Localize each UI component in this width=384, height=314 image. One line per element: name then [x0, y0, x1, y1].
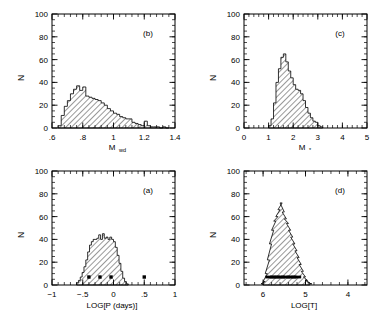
- panel-c-xticklabel: 5: [365, 133, 370, 142]
- panel-d-marker-dash: [291, 276, 301, 279]
- panel-c: 012345020406080100 (c) N M *: [192, 0, 384, 157]
- panel-c-xticklabel: 2: [291, 133, 296, 142]
- panel-b-yticklabel: 80: [39, 33, 48, 42]
- panel-d-plot-frame: [244, 171, 367, 285]
- panel-a-yticklabel: 0: [44, 281, 49, 290]
- panel-b-xlabel-base: M: [109, 143, 116, 152]
- panel-c-yticklabel: 100: [227, 10, 241, 19]
- panel-c-xticklabel: 3: [316, 133, 321, 142]
- panel-a-xlabel: LOG[P (days)]: [87, 301, 138, 310]
- panel-d-label: (d): [335, 186, 345, 195]
- panel-b-yticklabel: 20: [39, 101, 48, 110]
- panel-a-yticklabel: 20: [39, 258, 48, 267]
- panel-c-xticklabel: 0: [242, 133, 247, 142]
- panel-d-yticklabel: 0: [236, 281, 241, 290]
- panel-d-ylabel: N: [208, 232, 218, 238]
- panel-c-yticklabel: 80: [231, 33, 240, 42]
- panel-a-yticklabel: 80: [39, 190, 48, 199]
- panel-c-label: (c): [335, 29, 345, 38]
- panel-d-xlabel: LOG[T]: [291, 301, 317, 310]
- panel-a-marker-square: [143, 275, 146, 278]
- panel-c-histogram: [269, 54, 323, 128]
- panel-a-xticklabel: .5: [141, 290, 148, 299]
- panel-a-marker-square: [109, 275, 112, 278]
- panel-b-yticklabel: 40: [39, 78, 48, 87]
- panel-a-xticklabel: −1: [47, 290, 57, 299]
- panel-c-yticklabel: 20: [231, 101, 240, 110]
- panel-d-yticklabel: 40: [231, 235, 240, 244]
- panel-b-xticklabel: 1.4: [169, 133, 181, 142]
- panel-c-xticklabel: 4: [340, 133, 345, 142]
- panel-d-yticklabel: 20: [231, 258, 240, 267]
- panel-c-svg: 012345020406080100 (c) N M *: [192, 0, 384, 157]
- panel-a-svg: −1−.50.51020406080100 (a) N LOG[P (days)…: [0, 157, 192, 314]
- panel-c-xlabel-sub: *: [309, 147, 312, 153]
- panel-c-yticklabel: 0: [236, 124, 241, 133]
- panel-a: −1−.50.51020406080100 (a) N LOG[P (days)…: [0, 157, 192, 314]
- panel-a-yticklabel: 40: [39, 235, 48, 244]
- panel-a-histogram: [77, 234, 129, 285]
- panel-b-yticklabel: 100: [35, 10, 49, 19]
- panel-b-ylabel: N: [16, 75, 26, 81]
- panel-b-svg: .6.811.21.4020406080100 (b) N M wd: [0, 0, 192, 157]
- panel-d-yticklabel: 80: [231, 190, 240, 199]
- panel-b-yticklabel: 60: [39, 56, 48, 65]
- panel-d-xticklabel: 5: [303, 290, 308, 299]
- panel-d-svg: 654020406080100 (d) N LOG[T]: [192, 157, 384, 314]
- panel-b-label: (b): [143, 29, 153, 38]
- panel-c-yticklabel: 40: [231, 78, 240, 87]
- panel-a-ylabel: N: [16, 232, 26, 238]
- panel-b: .6.811.21.4020406080100 (b) N M wd: [0, 0, 192, 157]
- panel-a-marker-square: [98, 275, 101, 278]
- panel-a-yticklabel: 60: [39, 213, 48, 222]
- panel-a-label: (a): [143, 186, 153, 195]
- panel-a-xticklabel: 1: [173, 290, 178, 299]
- panel-a-xticklabel: −.5: [77, 290, 89, 299]
- panel-b-xticklabel: .8: [79, 133, 86, 142]
- panel-c-yticklabel: 60: [231, 56, 240, 65]
- panel-b-xticklabel: 1.2: [139, 133, 151, 142]
- panel-a-marker-square: [87, 275, 90, 278]
- panel-a-xticklabel: 0: [111, 290, 116, 299]
- panel-d-yticklabel: 60: [231, 213, 240, 222]
- panel-b-xticklabel: .6: [49, 133, 56, 142]
- panel-d-histogram: [261, 203, 312, 285]
- panel-c-ylabel: N: [208, 75, 218, 81]
- panel-b-xlabel-sub: wd: [118, 147, 126, 153]
- panel-d-xticklabel: 6: [261, 290, 266, 299]
- panel-b-yticklabel: 0: [44, 124, 49, 133]
- panel-b-xticklabel: 1: [111, 133, 116, 142]
- figure-canvas: .6.811.21.4020406080100 (b) N M wd 01234…: [0, 0, 384, 314]
- panel-d-yticklabel: 100: [227, 167, 241, 176]
- panel-c-xlabel-base: M: [299, 143, 306, 152]
- panel-a-yticklabel: 100: [35, 167, 49, 176]
- panel-d: 654020406080100 (d) N LOG[T]: [192, 157, 384, 314]
- panel-d-xticklabel: 4: [346, 290, 351, 299]
- panel-c-xticklabel: 1: [266, 133, 271, 142]
- panel-b-histogram: [58, 86, 169, 128]
